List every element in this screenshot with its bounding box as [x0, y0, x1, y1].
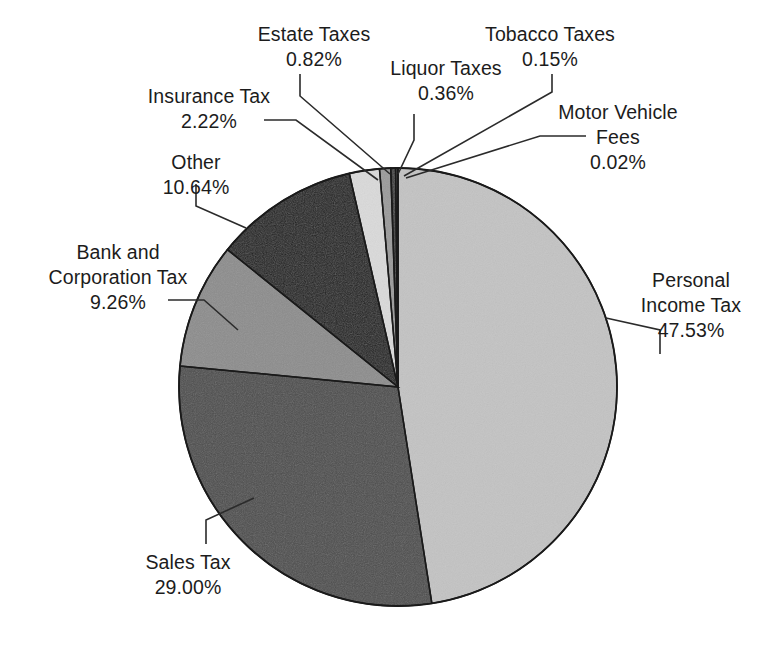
slice-label-liquor-taxes-value: 0.36% [366, 81, 526, 106]
slice-label-insurance-tax: Insurance Tax 2.22% [128, 84, 290, 134]
slice-label-estate-taxes-name: Estate Taxes [236, 22, 392, 47]
slice-label-personal-name2: Income Tax [628, 293, 754, 318]
slice-label-tobacco-taxes-value: 0.15% [470, 47, 630, 72]
slice-label-personal-value: 47.53% [628, 318, 754, 343]
slice-label-insurance-tax-value: 2.22% [128, 109, 290, 134]
slice-label-insurance-tax-name: Insurance Tax [128, 84, 290, 109]
slice-label-personal-income-tax: Personal Income Tax 47.53% [628, 268, 754, 343]
slice-label-motor-vehicle-fees-value: 0.02% [538, 150, 698, 175]
slice-label-bank-name1: Bank and [28, 240, 208, 265]
slice-label-motor-vehicle-fees-name1: Motor Vehicle [538, 100, 698, 125]
pie-slice-personal-income-tax[interactable] [398, 168, 617, 603]
slice-label-bank-name2: Corporation Tax [28, 265, 208, 290]
slice-label-other-value: 10.64% [140, 175, 252, 200]
slice-label-bank-and-corporation-tax: Bank and Corporation Tax 9.26% [28, 240, 208, 315]
slice-label-motor-vehicle-fees-name2: Fees [538, 125, 698, 150]
slice-label-sales-tax: Sales Tax 29.00% [112, 550, 264, 600]
slice-label-other-name: Other [140, 150, 252, 175]
slice-label-bank-value: 9.26% [28, 290, 208, 315]
slice-label-motor-vehicle-fees: Motor Vehicle Fees 0.02% [538, 100, 698, 175]
slice-label-sales-tax-name: Sales Tax [112, 550, 264, 575]
slice-label-personal-name1: Personal [628, 268, 754, 293]
slice-label-other: Other 10.64% [140, 150, 252, 200]
slice-label-tobacco-taxes: Tobacco Taxes 0.15% [470, 22, 630, 72]
pie-chart-page: Estate Taxes 0.82% Liquor Taxes 0.36% To… [0, 0, 757, 646]
slice-label-tobacco-taxes-name: Tobacco Taxes [470, 22, 630, 47]
leader-line-liquor [398, 114, 414, 174]
slice-label-sales-tax-value: 29.00% [112, 575, 264, 600]
